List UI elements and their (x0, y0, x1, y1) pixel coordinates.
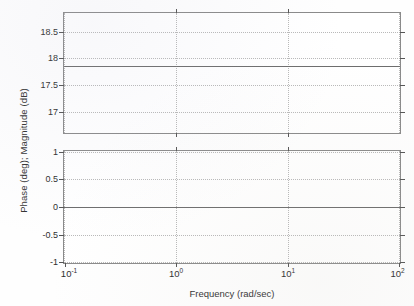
xtick-magnitude-1e1 (288, 133, 289, 137)
ytick-magnitude-17p5 (59, 85, 64, 86)
phase-plot-area (64, 151, 400, 263)
ytick-phase-0 (59, 207, 64, 208)
y-axis-label: Phase (deg); Magnitude (dB) (18, 51, 29, 251)
ytick-magnitude-18p5 (59, 32, 64, 33)
ytick-label-phase-1: 1 (53, 147, 58, 157)
ytick-label-phase-0p5: 0.5 (45, 174, 58, 184)
xtick-top-magnitude-1e1 (288, 9, 289, 13)
xtick-1e2 (399, 263, 400, 267)
ytick-right-magnitude-18p5 (400, 32, 405, 33)
xtick-1e-1 (65, 263, 66, 267)
gridline-horizontal-17p5 (64, 85, 400, 86)
xtick-label-1e1-exp: 1 (291, 267, 295, 274)
ytick-right-phase-1 (400, 152, 405, 153)
xtick-label-1e-1-base: 10 (61, 268, 72, 279)
xtick-label-1e2-exp: 2 (401, 267, 405, 274)
xtick-magnitude-1e0 (176, 133, 177, 137)
ytick-label-phase-m1: -1 (50, 257, 58, 267)
ytick-label-phase-0: 0 (53, 202, 58, 212)
magnitude-panel: 18.5 18 17.5 17 (63, 12, 401, 134)
ytick-phase-0p5 (59, 179, 64, 180)
ytick-label-magnitude-18: 18 (48, 53, 58, 63)
ytick-label-magnitude-17: 17 (48, 107, 58, 117)
gridline-horizontal-m0p5 (64, 235, 400, 236)
gridline-horizontal-17 (64, 112, 400, 113)
xtick-top-1e1 (288, 147, 289, 151)
ytick-right-phase-0 (400, 207, 405, 208)
xtick-label-1e-1-exp: -1 (71, 267, 77, 274)
ytick-right-phase-m0p5 (400, 235, 405, 236)
ytick-label-magnitude-17p5: 17.5 (40, 80, 58, 90)
gridline-horizontal-0p5 (64, 179, 400, 180)
xtick-top-magnitude-1e0 (176, 9, 177, 13)
xtick-top-1e0 (176, 147, 177, 151)
ytick-right-magnitude-18 (400, 58, 405, 59)
ytick-label-magnitude-18p5: 18.5 (40, 27, 58, 37)
gridline-horizontal-18p5 (64, 32, 400, 33)
bode-plot-figure: Phase (deg); Magnitude (dB) 18.5 18 17.5 (0, 0, 414, 306)
xtick-label-1e0: 100 (169, 268, 183, 279)
magnitude-plot-area (64, 13, 400, 133)
ytick-phase-m0p5 (59, 235, 64, 236)
xtick-label-1e1: 101 (281, 268, 295, 279)
x-axis-label: Frequency (rad/sec) (63, 288, 401, 299)
ytick-right-phase-m1 (400, 262, 405, 263)
xtick-1e0 (176, 263, 177, 267)
xtick-1e1 (288, 263, 289, 267)
ytick-label-phase-m0p5: -0.5 (42, 230, 58, 240)
xtick-label-1e2-base: 10 (391, 268, 402, 279)
ytick-right-phase-0p5 (400, 179, 405, 180)
xtick-label-1e-1: 10-1 (61, 268, 77, 279)
magnitude-trace (64, 66, 400, 67)
gridline-horizontal-m1 (64, 262, 400, 263)
gridline-horizontal-1 (64, 152, 400, 153)
ytick-phase-1 (59, 152, 64, 153)
ytick-magnitude-18 (59, 58, 64, 59)
ytick-right-magnitude-17 (400, 112, 405, 113)
xtick-label-1e1-base: 10 (281, 268, 292, 279)
xtick-label-1e0-exp: 0 (179, 267, 183, 274)
xtick-label-1e2: 102 (391, 268, 405, 279)
ytick-right-magnitude-17p5 (400, 85, 405, 86)
ytick-phase-m1 (59, 262, 64, 263)
phase-trace (64, 207, 400, 208)
phase-panel: 1 0.5 0 -0.5 -1 10-1 100 101 102 (63, 150, 401, 264)
xtick-label-1e0-base: 10 (169, 268, 180, 279)
ytick-magnitude-17 (59, 112, 64, 113)
gridline-horizontal-18 (64, 58, 400, 59)
